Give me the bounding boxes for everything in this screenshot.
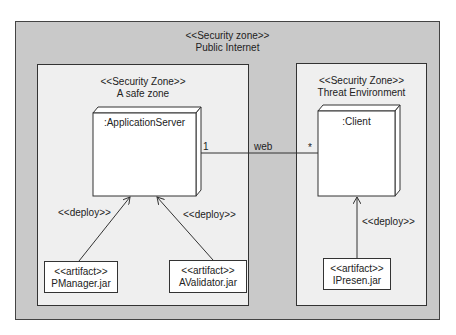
artifact-name: PManager.jar (45, 278, 117, 290)
artifact-stereotype: <<artifact>> (170, 265, 246, 277)
deploy-arrow-avalidator (157, 197, 213, 260)
left-multiplicity: 1 (203, 141, 209, 153)
artifact-ipresen: <<artifact>> IPresen.jar (323, 258, 391, 290)
artifact-name: AValidator.jar (170, 277, 246, 289)
artifact-stereotype: <<artifact>> (45, 266, 117, 278)
application-server-label: :ApplicationServer (93, 117, 196, 129)
deploy-label-ipresen: <<deploy>> (362, 216, 415, 228)
artifact-avalidator: <<artifact>> AValidator.jar (169, 260, 247, 293)
deploy-label-pmanager: <<deploy>> (58, 207, 111, 219)
artifact-pmanager: <<artifact>> PManager.jar (44, 261, 118, 293)
client-label: :Client (318, 116, 395, 128)
association-label: web (254, 141, 272, 153)
artifact-stereotype: <<artifact>> (324, 263, 390, 275)
right-multiplicity: * (308, 142, 312, 154)
artifact-name: IPresen.jar (324, 275, 390, 287)
deploy-label-avalidator: <<deploy>> (183, 209, 236, 221)
